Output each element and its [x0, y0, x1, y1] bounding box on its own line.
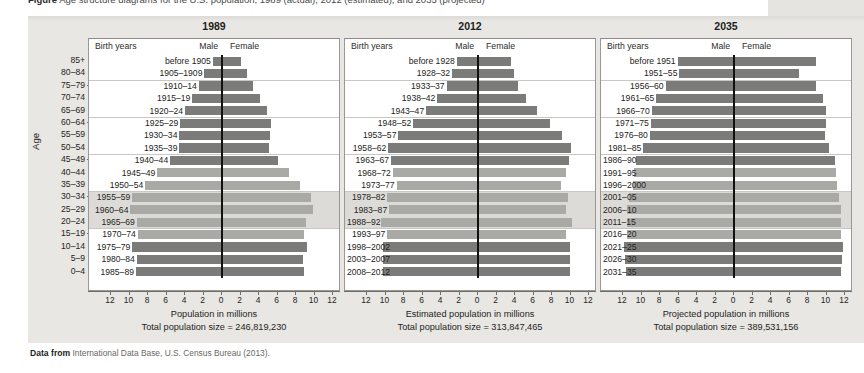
- x-axis-1989: 12108642024681012: [88, 291, 340, 309]
- x-axis-tick-label: 4: [687, 295, 705, 305]
- birth-year-label: 2031–35: [603, 267, 624, 277]
- pyramid-row: 2006–10: [601, 204, 851, 216]
- male-bar: [629, 193, 734, 202]
- pyramid-row: 1955–59: [89, 191, 339, 203]
- female-bar: [478, 119, 550, 128]
- birth-year-label: 1961–65: [603, 93, 654, 103]
- x-axis-tick-label: 6: [157, 295, 175, 305]
- male-header: Male: [170, 41, 218, 51]
- female-bar: [222, 143, 269, 152]
- female-bar: [478, 156, 569, 165]
- pyramid-row: 1991–95: [601, 167, 851, 179]
- age-group-label: 55–59: [40, 128, 88, 140]
- male-header: Male: [426, 41, 474, 51]
- panel-year-2012: 2012: [344, 20, 596, 32]
- x-axis-2012: 12108642024681012: [344, 291, 596, 309]
- x-axis-rule: [88, 291, 340, 292]
- male-bar: [199, 81, 222, 90]
- age-group-label: 15–19: [40, 227, 88, 239]
- female-bar: [222, 94, 260, 103]
- male-bar: [387, 230, 478, 239]
- female-bar: [734, 267, 841, 276]
- male-bar: [132, 193, 222, 202]
- pyramid-row: 1951–55: [601, 67, 851, 79]
- age-group-label: 75–79: [40, 79, 88, 91]
- birth-year-label: 2011–15: [603, 217, 625, 227]
- age-group-label: 0–4: [40, 265, 88, 277]
- female-bar: [734, 168, 836, 177]
- pyramid-row: 1930–34: [89, 129, 339, 141]
- birth-year-label: 2008–2012: [347, 267, 381, 277]
- age-group-label: 40–44: [40, 166, 88, 178]
- pyramid-row: 1986–90: [601, 154, 851, 166]
- female-header: Female: [486, 41, 538, 51]
- female-bar: [734, 205, 841, 214]
- x-axis-title: Population in millions: [88, 309, 340, 319]
- pyramid-row: 2001–05: [601, 191, 851, 203]
- female-bar: [478, 218, 572, 227]
- female-bar: [734, 156, 835, 165]
- x-axis-tick-label: 12: [613, 295, 631, 305]
- female-header: Female: [230, 41, 282, 51]
- birth-year-label: 1988–92: [347, 217, 379, 227]
- pyramid-row: 1996–2000: [601, 179, 851, 191]
- pyramid-row: 1966–70: [601, 105, 851, 117]
- x-axis-tick-label: 4: [175, 295, 193, 305]
- pyramid-row: 1940–44: [89, 154, 339, 166]
- birth-year-label: 2006–10: [603, 205, 625, 215]
- birth-year-label: 1933–37: [347, 81, 445, 91]
- x-axis-tick-label: 2: [194, 295, 212, 305]
- pyramid-row: 2026–30: [601, 253, 851, 265]
- female-bar: [478, 69, 514, 78]
- pyramid-row: 1973–77: [345, 179, 595, 191]
- pyramid-rows: before 19511951–551956–601961–651966–701…: [601, 55, 851, 278]
- birth-year-label: 1993–97: [347, 229, 385, 239]
- male-bar: [452, 69, 478, 78]
- pyramid-row: 2008–2012: [345, 266, 595, 278]
- male-bar: [137, 255, 222, 264]
- birth-year-label: 1955–59: [91, 192, 130, 202]
- x-axis-rule: [344, 291, 596, 292]
- pyramid-row: 2003–2007: [345, 253, 595, 265]
- female-bar: [222, 181, 300, 190]
- population-pyramid-figure: Figure Age structure diagrams for the U.…: [0, 0, 864, 373]
- female-bar: [734, 119, 826, 128]
- total-population-label: Total population size = 389,531,156: [600, 322, 852, 332]
- x-axis-tick-label: 2: [743, 295, 761, 305]
- female-bar: [222, 267, 304, 276]
- pyramid-row: 1950–54: [89, 179, 339, 191]
- age-group-label: 25–29: [40, 203, 88, 215]
- age-group-label: 85+: [40, 54, 88, 66]
- male-bar: [426, 106, 478, 115]
- birth-year-label: 2026–30: [603, 254, 623, 264]
- birth-year-label: 1958–62: [347, 143, 386, 153]
- pyramid-row: 1948–52: [345, 117, 595, 129]
- male-bar: [626, 267, 734, 276]
- birth-year-label: 1976–80: [603, 130, 648, 140]
- figure-caption-bold: Figure: [28, 0, 57, 5]
- birth-year-label: 1951–55: [603, 68, 677, 78]
- x-axis-tick-label: 10: [632, 295, 650, 305]
- panel-year-2035: 2035: [600, 20, 852, 32]
- male-bar: [643, 143, 734, 152]
- female-bar: [734, 94, 823, 103]
- male-bar: [624, 242, 734, 251]
- x-axis-tick-label: 4: [761, 295, 779, 305]
- panel-header: Birth yearsMaleFemale: [601, 39, 851, 55]
- female-bar: [478, 143, 571, 152]
- birth-year-label: 1945–49: [91, 168, 155, 178]
- pyramid-row: 1933–37: [345, 80, 595, 92]
- pyramid-row: 2011–15: [601, 216, 851, 228]
- pyramid-row: 1956–60: [601, 80, 851, 92]
- male-bar: [192, 94, 222, 103]
- female-bar: [734, 242, 843, 251]
- x-axis-tick-label: 6: [780, 295, 798, 305]
- female-bar: [222, 255, 303, 264]
- birth-year-label: 2016–20: [603, 229, 625, 239]
- panel-header: Birth yearsMaleFemale: [345, 39, 595, 55]
- female-bar: [478, 255, 570, 264]
- pyramid-row: 1983–87: [345, 204, 595, 216]
- source-note-bold: Data from: [30, 348, 70, 358]
- pyramid-row: 1953–57: [345, 129, 595, 141]
- birth-year-label: before 1905: [91, 56, 211, 66]
